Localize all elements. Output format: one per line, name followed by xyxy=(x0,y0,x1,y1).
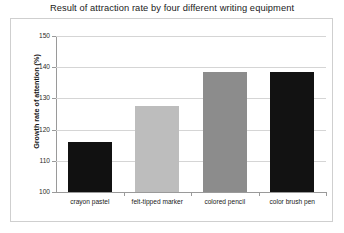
y-axis-tick-label: 150 xyxy=(20,32,50,39)
y-axis-tick-label: 140 xyxy=(20,63,50,70)
y-axis-tick-mark xyxy=(52,130,56,131)
y-axis-tick-mark xyxy=(52,36,56,37)
bar xyxy=(68,142,112,192)
y-axis-tick-mark xyxy=(52,98,56,99)
bar-chart-figure: Result of attraction rate by four differ… xyxy=(0,0,344,233)
y-axis-tick-mark xyxy=(52,67,56,68)
bar xyxy=(270,72,314,192)
x-axis-tick-mark xyxy=(326,192,327,196)
plot-area: 100110120130140150 crayon pastelfelt-tip… xyxy=(56,36,326,192)
x-axis-tick-mark xyxy=(191,192,192,196)
y-axis-tick-label: 100 xyxy=(20,188,50,195)
gridline xyxy=(56,36,326,37)
x-axis-tick-label: colored pencil xyxy=(204,198,245,205)
bar xyxy=(203,72,247,192)
y-axis-line xyxy=(56,36,57,192)
y-axis-tick-label: 120 xyxy=(20,126,50,133)
x-axis-tick-label: color brush pen xyxy=(270,198,315,205)
chart-plot-frame: Growth rate of attention (%) 10011012013… xyxy=(10,18,333,222)
y-axis-tick-label: 110 xyxy=(20,157,50,164)
y-axis-tick-label: 130 xyxy=(20,94,50,101)
gridline xyxy=(56,67,326,68)
y-axis-title: Growth rate of attention (%) xyxy=(32,32,41,172)
x-axis-tick-label: felt-tipped marker xyxy=(132,198,183,205)
bar xyxy=(135,106,179,192)
chart-title: Result of attraction rate by four differ… xyxy=(0,3,344,13)
x-axis-tick-mark xyxy=(259,192,260,196)
x-axis-tick-label: crayon pastel xyxy=(70,198,109,205)
x-axis-tick-mark xyxy=(124,192,125,196)
y-axis-tick-mark xyxy=(52,192,56,193)
y-axis-tick-mark xyxy=(52,161,56,162)
